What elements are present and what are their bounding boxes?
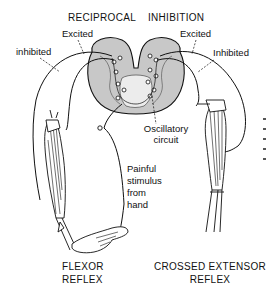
caption-crossed-extensor-reflex: CROSSED EXTENSOR REFLEX xyxy=(150,260,270,286)
label-painful-stimulus: Painful stimulus from hand xyxy=(127,163,162,211)
label-inhibited-left: inhibited xyxy=(16,46,51,57)
label-excited-right: Excited xyxy=(180,28,211,39)
caption-flexor-reflex: FLEXOR REFLEX xyxy=(62,260,104,286)
label-excited-left: Excited xyxy=(62,28,93,39)
left-arm-muscle xyxy=(45,110,76,250)
label-painful-line4: hand xyxy=(127,199,162,211)
label-painful-line1: Painful xyxy=(127,163,162,175)
label-inhibited-right: Inhibited xyxy=(213,47,249,58)
label-oscillatory-line1: Oscillatory xyxy=(138,123,194,134)
caption-flexor-line1: FLEXOR xyxy=(62,260,104,273)
cropped-text-fragments xyxy=(263,118,267,168)
caption-crossed-line1: CROSSED EXTENSOR xyxy=(150,260,270,273)
spinal-cord xyxy=(88,38,185,114)
label-painful-line3: from xyxy=(127,187,162,199)
receptor-dot xyxy=(98,126,102,130)
label-painful-line2: stimulus xyxy=(127,175,162,187)
label-oscillatory-line2: circuit xyxy=(138,134,194,145)
hand-illustration xyxy=(72,227,128,253)
title-inhibition: INHIBITION xyxy=(148,12,204,23)
caption-flexor-line2: REFLEX xyxy=(62,273,104,286)
label-oscillatory-circuit: Oscillatory circuit xyxy=(138,123,194,145)
right-leg-muscle xyxy=(198,100,226,232)
title-reciprocal: RECIPROCAL xyxy=(68,12,136,23)
reflex-diagram-illustration xyxy=(0,0,273,293)
caption-crossed-line2: REFLEX xyxy=(150,273,270,286)
